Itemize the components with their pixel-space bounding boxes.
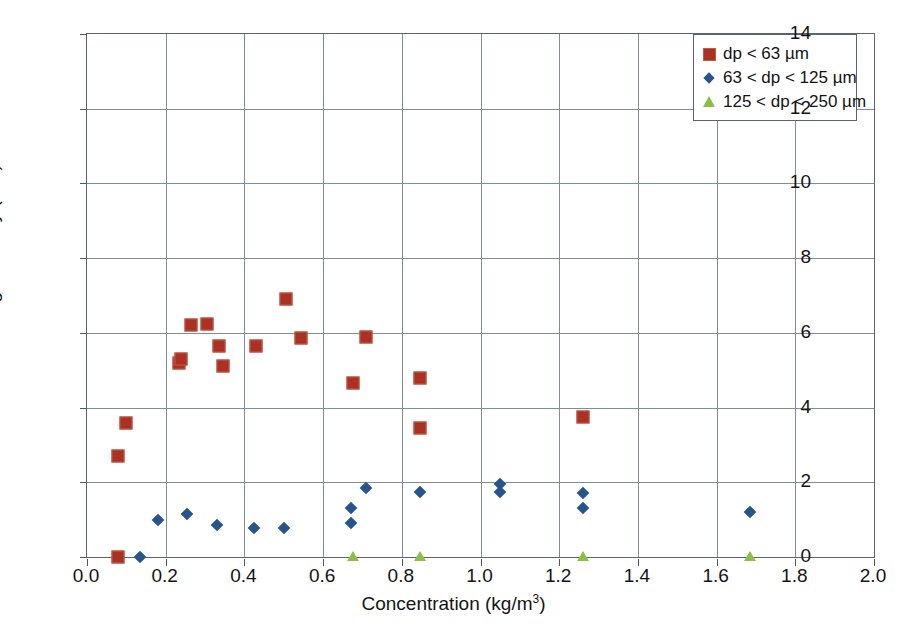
data-point bbox=[134, 551, 147, 564]
data-point bbox=[360, 482, 373, 495]
data-point bbox=[112, 450, 125, 463]
data-point bbox=[151, 514, 164, 527]
data-point bbox=[112, 551, 125, 564]
data-point bbox=[175, 353, 188, 366]
y-axis-tick-label: 6 bbox=[800, 322, 811, 341]
data-point bbox=[181, 508, 194, 521]
y-axis-tick bbox=[80, 109, 87, 110]
legend-item-dp-63-125[interactable]: 63 < dp < 125 µm bbox=[702, 65, 848, 89]
gridline-vertical bbox=[323, 34, 324, 557]
data-point bbox=[201, 317, 214, 330]
data-point bbox=[250, 339, 263, 352]
y-axis-tick-label: 0 bbox=[800, 546, 811, 565]
x-axis-tick-label: 1.4 bbox=[624, 566, 650, 585]
y-axis-tick bbox=[80, 183, 87, 184]
y-axis-tick-label: 14 bbox=[790, 23, 811, 42]
x-axis-tick-label: 2.0 bbox=[860, 566, 886, 585]
gridline-vertical bbox=[638, 34, 639, 557]
data-point bbox=[210, 519, 223, 532]
y-axis-title: Average velocity (m/s) bbox=[0, 164, 3, 352]
data-point bbox=[744, 551, 756, 561]
x-axis-tick-label: 0.2 bbox=[151, 566, 177, 585]
x-axis-tick-label: 1.8 bbox=[781, 566, 807, 585]
legend: dp < 63 µm 63 < dp < 125 µm 125 < dp < 2… bbox=[693, 34, 857, 121]
data-point bbox=[279, 293, 292, 306]
y-axis-tick bbox=[80, 408, 87, 409]
gridline-vertical bbox=[559, 34, 560, 557]
triangle-marker-icon bbox=[702, 94, 716, 108]
x-axis-title-tail: ) bbox=[539, 593, 545, 614]
data-point bbox=[277, 521, 290, 534]
data-point bbox=[212, 339, 225, 352]
y-axis-tick-label: 12 bbox=[790, 98, 811, 117]
y-axis-tick bbox=[80, 557, 87, 558]
data-point bbox=[344, 517, 357, 530]
x-axis-title-base: Concentration (kg/m bbox=[361, 593, 532, 614]
legend-item-dp-125-250[interactable]: 125 < dp < 250 µm bbox=[702, 89, 848, 113]
y-axis-tick bbox=[80, 482, 87, 483]
gridline-vertical bbox=[244, 34, 245, 557]
x-axis-tick-label: 0.0 bbox=[73, 566, 99, 585]
data-point bbox=[360, 330, 373, 343]
data-point bbox=[576, 487, 589, 500]
y-axis-tick bbox=[80, 258, 87, 259]
y-axis-tick-label: 10 bbox=[790, 172, 811, 191]
data-point bbox=[576, 410, 589, 423]
gridline-vertical bbox=[402, 34, 403, 557]
y-axis-tick-label: 2 bbox=[800, 471, 811, 490]
data-point bbox=[216, 360, 229, 373]
x-axis-tick-label: 0.8 bbox=[388, 566, 414, 585]
x-axis-tick-label: 0.4 bbox=[230, 566, 256, 585]
data-point bbox=[577, 551, 589, 561]
y-axis-tick bbox=[80, 34, 87, 35]
data-point bbox=[185, 319, 198, 332]
x-axis-tick-label: 1.6 bbox=[702, 566, 728, 585]
data-point bbox=[347, 551, 359, 561]
x-axis-title: Concentration (kg/m3) bbox=[0, 592, 907, 615]
data-point bbox=[413, 485, 426, 498]
gridline-vertical bbox=[166, 34, 167, 557]
square-marker-icon bbox=[702, 46, 716, 60]
data-point bbox=[744, 506, 757, 519]
data-point bbox=[248, 521, 261, 534]
data-point bbox=[413, 371, 426, 384]
data-point bbox=[414, 551, 426, 561]
scatter-chart: Average velocity (m/s) Concentration (kg… bbox=[0, 0, 907, 629]
data-point bbox=[344, 502, 357, 515]
data-point bbox=[120, 416, 133, 429]
legend-label: dp < 63 µm bbox=[723, 45, 809, 62]
legend-label: 63 < dp < 125 µm bbox=[723, 69, 857, 86]
legend-item-dp-lt-63[interactable]: dp < 63 µm bbox=[702, 41, 848, 65]
data-point bbox=[413, 422, 426, 435]
data-point bbox=[576, 502, 589, 515]
y-axis-tick-label: 8 bbox=[800, 247, 811, 266]
diamond-marker-icon bbox=[702, 70, 716, 84]
data-point bbox=[295, 332, 308, 345]
data-point bbox=[494, 485, 507, 498]
y-axis-tick-label: 4 bbox=[800, 397, 811, 416]
data-point bbox=[346, 377, 359, 390]
y-axis-tick bbox=[80, 333, 87, 334]
x-axis-tick-label: 1.2 bbox=[545, 566, 571, 585]
gridline-vertical bbox=[481, 34, 482, 557]
x-axis-tick-label: 0.6 bbox=[309, 566, 335, 585]
x-axis-tick-label: 1.0 bbox=[466, 566, 492, 585]
